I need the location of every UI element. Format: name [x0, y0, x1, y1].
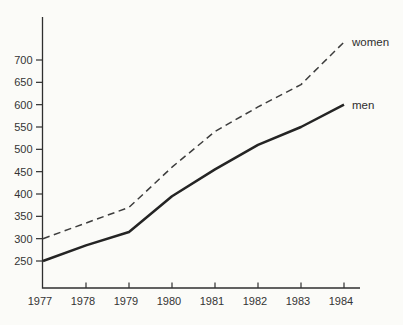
axes: [43, 17, 361, 288]
x-tick-label: 1980: [157, 295, 181, 307]
y-tick-label: 650: [14, 76, 32, 88]
y-tick-label: 550: [14, 121, 32, 133]
series-label-women: women: [351, 36, 389, 48]
series-line-women: [43, 42, 344, 239]
x-tick-label: 1981: [200, 295, 224, 307]
axis-tick-labels: 2503003504004505005506006507001977197819…: [14, 54, 353, 307]
series-label-men: men: [352, 99, 374, 111]
y-tick-label: 300: [14, 233, 32, 245]
axis-lines: [43, 17, 361, 288]
series-end-labels: womenmen: [351, 36, 389, 111]
y-tick-label: 700: [14, 54, 32, 66]
x-tick-label: 1979: [114, 295, 138, 307]
x-tick-label: 1982: [243, 295, 267, 307]
x-tick-label: 1977: [28, 295, 52, 307]
x-tick-label: 1984: [329, 295, 353, 307]
axis-ticks: [36, 60, 344, 288]
x-tick-label: 1978: [71, 295, 95, 307]
y-tick-label: 450: [14, 166, 32, 178]
scanned-chart-page: 2503003504004505005506006507001977197819…: [0, 0, 403, 325]
earnings-line-chart: 2503003504004505005506006507001977197819…: [0, 0, 403, 325]
y-tick-label: 350: [14, 210, 32, 222]
data-series: [43, 42, 344, 261]
y-tick-label: 400: [14, 188, 32, 200]
x-tick-label: 1983: [286, 295, 310, 307]
y-tick-label: 250: [14, 255, 32, 267]
series-line-men: [43, 105, 344, 261]
y-tick-label: 500: [14, 143, 32, 155]
y-tick-label: 600: [14, 99, 32, 111]
